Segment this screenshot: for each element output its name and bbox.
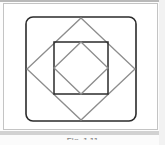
large-diamond-shape	[27, 18, 135, 120]
inner-diamond-shape	[54, 42, 108, 94]
figure-graphic	[4, 4, 159, 131]
page-right-gutter	[159, 0, 165, 145]
figure-caption-strip: Fig. 1.11	[0, 135, 165, 145]
inner-square-shape	[54, 42, 108, 94]
figure-caption-label: Fig. 1.11	[0, 136, 165, 145]
figure-panel	[3, 3, 158, 130]
top-divider-rule	[0, 0, 165, 2]
scanned-page: Fig. 1.11	[0, 0, 165, 145]
outer-rounded-square-shape	[26, 17, 136, 121]
